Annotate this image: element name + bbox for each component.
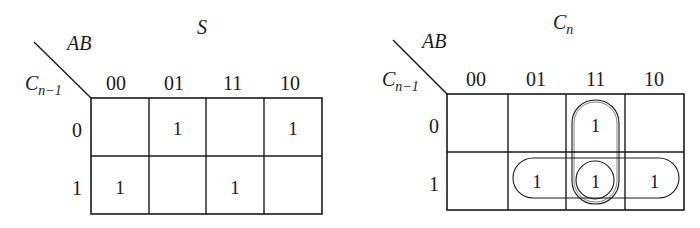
row-header-0: 0 — [429, 116, 439, 136]
column-variable-label: AB — [422, 31, 446, 51]
col-header-10: 10 — [644, 69, 664, 89]
row-header-1: 1 — [429, 174, 439, 194]
col-header-01: 01 — [526, 69, 546, 89]
map-title-cn: Cn — [553, 12, 573, 32]
col-header-00: 00 — [466, 69, 486, 89]
cell-0-11: 1 — [566, 116, 625, 135]
cell-1-11: 1 — [566, 172, 625, 191]
col-header-11: 11 — [586, 69, 605, 89]
karnaugh-map-cn: Cn AB Cn−1 00 01 11 10 0 1 1 1 1 1 — [0, 0, 700, 228]
row-variable-label: Cn−1 — [382, 69, 419, 89]
kmap-cn-grid — [0, 0, 700, 228]
cell-1-01: 1 — [508, 172, 566, 191]
cell-1-10: 1 — [625, 172, 684, 191]
